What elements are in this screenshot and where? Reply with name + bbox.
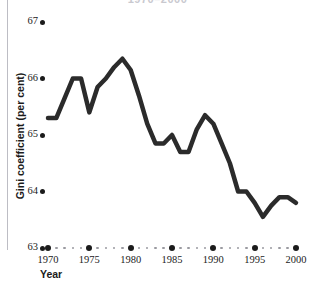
y-tick-label: 65: [16, 128, 38, 139]
x-tick-label: 1995: [235, 254, 275, 265]
y-tick-dot: [40, 133, 45, 138]
x-tick-label: 1985: [152, 254, 192, 265]
x-tick-dot-minor: [55, 247, 58, 250]
x-tick-dot-major: [128, 245, 134, 251]
x-tick-dot-major: [293, 245, 299, 251]
x-tick-dot-minor: [220, 247, 223, 250]
y-tick-label: 64: [16, 185, 38, 196]
x-tick-dot-minor: [187, 247, 190, 250]
x-tick-dot-minor: [179, 247, 182, 250]
x-axis-title: Year: [40, 268, 62, 280]
y-tick-label: 66: [16, 72, 38, 83]
x-tick-label: 1970: [28, 254, 68, 265]
y-tick-label: 67: [16, 15, 38, 26]
x-tick-dot-major: [45, 245, 51, 251]
plot-area: Gini coefficient (per cent) 6364656667 1…: [0, 0, 315, 287]
x-tick-dot-major: [169, 245, 175, 251]
x-tick-dot-major: [252, 245, 258, 251]
y-tick-label: 63: [16, 241, 38, 252]
y-tick-dot: [40, 76, 45, 81]
x-tick-dot-minor: [245, 247, 248, 250]
x-tick-dot-minor: [63, 247, 66, 250]
y-tick-dot: [40, 189, 45, 194]
chart-figure: 1970–2000 Gini coefficient (per cent) 63…: [0, 0, 315, 287]
x-tick-label: 1990: [193, 254, 233, 265]
x-tick-dot-minor: [96, 247, 99, 250]
x-tick-dot-minor: [278, 247, 281, 250]
y-tick-dot: [40, 20, 45, 25]
x-tick-dot-minor: [121, 247, 124, 250]
x-tick-label: 2000: [276, 254, 315, 265]
x-tick-label: 1980: [111, 254, 151, 265]
x-tick-label: 1975: [69, 254, 109, 265]
gini-line-series: [0, 0, 315, 287]
x-tick-dot-minor: [154, 247, 157, 250]
